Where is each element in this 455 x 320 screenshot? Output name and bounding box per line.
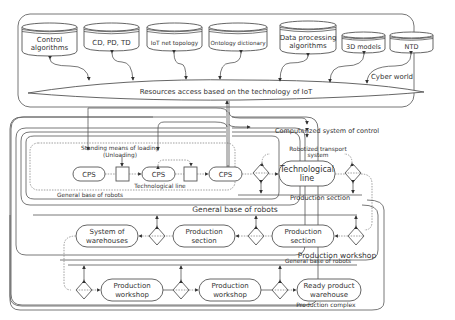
database-iot-net-topology[interactable]: IoT net topology bbox=[147, 23, 202, 51]
tech-line-box-label: line bbox=[300, 174, 315, 183]
database-data-processing-algorithms[interactable]: Data processing algorithms bbox=[280, 21, 337, 54]
ready-product-warehouse-node[interactable]: Ready product warehouse bbox=[297, 279, 361, 301]
loading-station-2[interactable] bbox=[184, 167, 197, 181]
cps-node-3[interactable]: CPS bbox=[209, 167, 242, 181]
technological-line-node[interactable]: Technological line bbox=[279, 161, 335, 186]
database-control-algorithms[interactable]: Control algorithms bbox=[22, 23, 77, 56]
production-section-node-a[interactable]: Production section bbox=[173, 225, 235, 247]
database-label: Ontology dictionary bbox=[210, 40, 266, 47]
workshop-label: Production bbox=[211, 282, 248, 290]
tech-line-box-label: Technological bbox=[279, 165, 334, 174]
database-ontology-dictionary[interactable]: Ontology dictionary bbox=[209, 23, 267, 51]
decision-node[interactable] bbox=[272, 281, 288, 299]
loading-station-1[interactable] bbox=[116, 167, 129, 181]
diagram: Control algorithms CD, PD, TD IoT net to… bbox=[0, 0, 455, 320]
cps-label: CPS bbox=[219, 171, 233, 179]
decision-node[interactable] bbox=[345, 164, 361, 182]
workshop-label: workshop bbox=[213, 291, 247, 299]
cps-label: CPS bbox=[82, 171, 96, 179]
database-ntd[interactable]: NTD bbox=[390, 32, 433, 53]
database-label: algorithms bbox=[31, 44, 69, 52]
gbr-label-2: General base of robots bbox=[192, 205, 278, 214]
cps-node-1[interactable]: CPS bbox=[73, 167, 105, 181]
section-label: Production bbox=[284, 228, 321, 236]
section-label: Production bbox=[185, 228, 222, 236]
control-system-label: Computerized system of control bbox=[275, 127, 379, 135]
production-complex-label: Production complex bbox=[296, 301, 356, 309]
warehouses-label: System of bbox=[89, 228, 125, 236]
decision-node[interactable] bbox=[149, 227, 165, 245]
ready-warehouse-label: Ready product bbox=[304, 282, 355, 290]
decision-node[interactable] bbox=[248, 227, 264, 245]
database-label: 3D models bbox=[346, 43, 381, 51]
workshop-label: Production bbox=[113, 282, 150, 290]
technological-line-label: Technological line bbox=[133, 183, 186, 190]
warehouses-label: warehouses bbox=[86, 237, 128, 245]
database-label: Control bbox=[37, 36, 62, 44]
transport-label: system bbox=[308, 152, 329, 159]
database-cd-pd-td[interactable]: CD, PD, TD bbox=[84, 23, 139, 51]
system-of-warehouses-node[interactable]: System of warehouses bbox=[76, 225, 138, 247]
gbr-label-1: General base of robots bbox=[57, 192, 123, 198]
standing-means-label: Standing means of loading bbox=[81, 145, 159, 152]
section-label: section bbox=[191, 237, 216, 245]
database-3d-models[interactable]: 3D models bbox=[342, 32, 385, 53]
db-connectors bbox=[50, 53, 411, 83]
database-label: algorithms bbox=[289, 42, 327, 50]
decision-node[interactable] bbox=[173, 281, 189, 299]
unloading-label: (Unloading) bbox=[103, 152, 137, 159]
cps-node-2[interactable]: CPS bbox=[142, 167, 175, 181]
database-label: IoT net topology bbox=[151, 40, 199, 47]
decision-node[interactable] bbox=[76, 281, 92, 299]
gbr-label-3: General base of robots bbox=[285, 258, 351, 264]
database-label: Data processing bbox=[280, 34, 337, 42]
cps-label: CPS bbox=[152, 171, 166, 179]
section-label: section bbox=[290, 237, 315, 245]
decision-node[interactable] bbox=[253, 164, 269, 182]
database-label: CD, PD, TD bbox=[92, 39, 130, 47]
workshop-label: workshop bbox=[115, 291, 149, 299]
cyber-world-label: Cyber world bbox=[371, 73, 413, 81]
production-section-node-b[interactable]: Production section bbox=[272, 225, 334, 247]
decision-node[interactable] bbox=[348, 227, 364, 245]
bus-label: Resources access based on the technology… bbox=[140, 88, 313, 96]
ready-warehouse-label: warehouse bbox=[310, 291, 348, 299]
production-workshop-node-b[interactable]: Production workshop bbox=[199, 279, 261, 301]
production-section-label: Production section bbox=[290, 194, 350, 202]
database-label: NTD bbox=[405, 43, 419, 51]
production-workshop-node-a[interactable]: Production workshop bbox=[101, 279, 163, 301]
